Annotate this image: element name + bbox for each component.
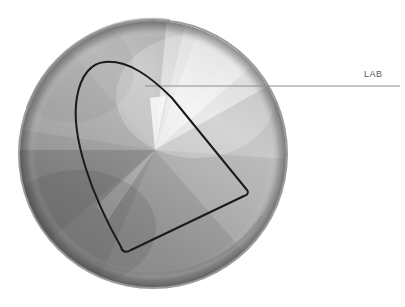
disc-sheen [0,5,300,303]
figure-canvas: LAB [0,0,405,307]
lab-callout-label: LAB [364,70,383,79]
diagram-svg [0,0,405,307]
